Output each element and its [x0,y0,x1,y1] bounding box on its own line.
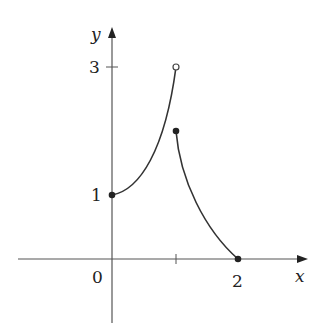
point-filled-0-1 [109,192,116,199]
x-tick-label-2: 2 [232,271,243,291]
y-tick-label-1: 1 [91,185,102,205]
origin-label: 0 [92,267,103,287]
x-axis-arrow-icon [297,255,308,263]
y-axis-arrow-icon [108,27,116,38]
y-axis-label: y [90,24,101,44]
point-filled-1-2 [173,128,180,135]
point-filled-2-0 [235,256,242,263]
point-open-1-3 [173,64,179,70]
graph-canvas: y 3 1 0 2 x [0,0,321,327]
curve-piece-2 [176,131,238,259]
x-axis-label: x [295,266,305,286]
curve-piece-1 [112,67,176,195]
y-tick-label-3: 3 [89,57,100,77]
